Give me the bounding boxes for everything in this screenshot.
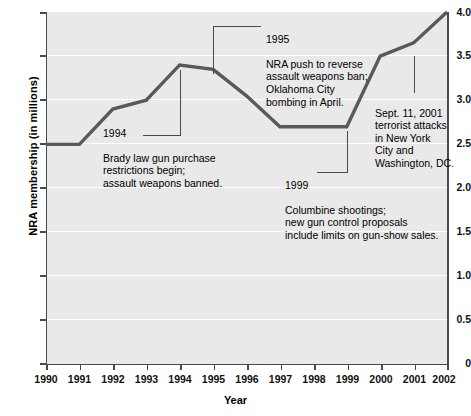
leader-line-2001-vertical <box>414 56 415 93</box>
x-tick-mark <box>281 365 283 370</box>
y-tick-label-4: 4.0 <box>437 7 471 17</box>
annotation-1995-year: 1995 <box>266 33 401 46</box>
x-tick-mark <box>348 365 350 370</box>
x-tick-mark <box>113 365 115 370</box>
x-tick-mark <box>46 365 48 370</box>
y-tick-label-0_5: 0.5 <box>437 314 471 324</box>
y-tick-mark <box>40 143 46 145</box>
y-tick-mark <box>40 55 46 57</box>
x-axis-title: Year <box>0 394 471 406</box>
y-tick-mark <box>40 319 46 321</box>
annotation-1994: 1994 Brady law gun purchase restrictions… <box>103 114 263 202</box>
y-tick-mark <box>40 231 46 233</box>
x-tick-label-2002: 2002 <box>424 373 464 385</box>
x-tick-mark <box>415 365 417 370</box>
annotation-1994-text: Brady law gun purchase restrictions begi… <box>103 152 263 190</box>
x-tick-mark <box>247 365 249 370</box>
y-tick-mark <box>40 187 46 189</box>
gridline-1.0 <box>47 275 449 276</box>
x-tick-mark <box>447 365 449 370</box>
annotation-2001-text: Sept. 11, 2001 terrorist attacks in New … <box>375 107 470 170</box>
y-tick-mark <box>40 99 46 101</box>
x-tick-mark <box>180 365 182 370</box>
y-tick-label-0: 0 <box>437 358 471 368</box>
annotation-1999: 1999 Columbine shootings; new gun contro… <box>285 166 470 254</box>
y-tick-mark <box>40 275 46 277</box>
y-tick-label-1: 1.0 <box>437 270 471 280</box>
x-tick-mark <box>80 365 82 370</box>
annotation-1999-text: Columbine shootings; new gun control pro… <box>285 204 470 242</box>
leader-line-1995-vertical <box>213 26 214 74</box>
leader-line-1995-horizontal <box>213 26 261 27</box>
annotation-1994-year: 1994 <box>103 127 263 140</box>
x-tick-mark <box>214 365 216 370</box>
x-tick-mark <box>314 365 316 370</box>
gridline-0.5 <box>47 319 449 320</box>
chart-figure: 4.0 3.5 3.0 2.5 2.0 1.5 1.0 0.5 0 NRA me… <box>0 0 471 416</box>
y-axis-title: NRA membership (in millions) <box>27 31 39 281</box>
x-tick-mark <box>147 365 149 370</box>
y-tick-label-3_5: 3.5 <box>437 50 471 60</box>
y-tick-mark <box>40 12 46 14</box>
x-tick-mark <box>381 365 383 370</box>
annotation-1999-year: 1999 <box>285 179 470 192</box>
